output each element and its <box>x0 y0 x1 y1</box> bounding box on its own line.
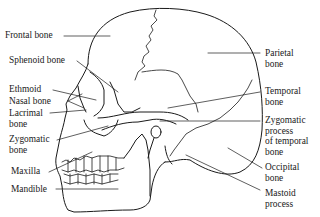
sphenoid-region <box>110 82 140 112</box>
label-zygomatic-bone: Zygomatic bone <box>9 134 50 155</box>
mandible-ramus <box>124 134 150 196</box>
label-ethmoid: Ethmoid <box>9 84 41 95</box>
label-nasal-bone: Nasal bone <box>9 96 51 107</box>
zygomatic-arch <box>98 112 188 120</box>
lower-teeth <box>64 174 118 184</box>
skull-diagram: Frontal bone Sphenoid bone Ethmoid Nasal… <box>0 0 320 217</box>
coronal-suture <box>135 10 157 80</box>
ear-canal <box>151 126 161 138</box>
label-frontal-bone: Frontal bone <box>5 30 53 41</box>
orbit-outline <box>90 72 104 116</box>
label-parietal-bone: Parietal bone <box>265 48 294 69</box>
lambdoid-suture <box>170 80 252 156</box>
upper-teeth <box>62 156 124 172</box>
label-occipital-bone: Occipital bone <box>265 162 299 183</box>
label-lacrimal-bone: Lacrimal bone <box>9 108 43 129</box>
label-zygomatic-process: Zygomatic process of temporal bone <box>265 115 308 157</box>
label-sphenoid-bone: Sphenoid bone <box>9 55 65 66</box>
label-mastoid-process: Mastoid process <box>265 188 296 209</box>
orbit-inner <box>78 86 86 112</box>
leader-lines <box>49 36 262 190</box>
label-mandible: Mandible <box>11 184 47 195</box>
squamosal-suture <box>142 70 198 112</box>
label-temporal-bone: Temporal bone <box>265 86 301 107</box>
label-maxilla: Maxilla <box>11 166 40 177</box>
